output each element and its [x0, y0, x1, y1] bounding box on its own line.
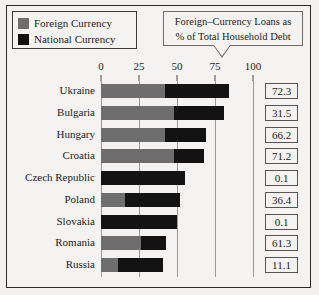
bar-segment-national — [174, 149, 204, 163]
bar-segment-foreign — [101, 258, 118, 272]
value-box: 31.5 — [265, 105, 298, 121]
chart-row: Czech Republic0.1 — [0, 168, 319, 190]
bar-segment-foreign — [101, 106, 174, 120]
category-label: Bulgaria — [57, 106, 95, 118]
legend-item-national-currency: National Currency — [18, 31, 132, 47]
callout-pointer-inner-icon — [214, 45, 230, 56]
category-label: Slovakia — [57, 215, 96, 227]
stacked-bar — [101, 171, 185, 185]
stacked-bar — [101, 215, 177, 229]
plot-area: Ukraine72.3Bulgaria31.5Hungary66.2Croati… — [0, 81, 319, 277]
chart-row: Romania61.3 — [0, 233, 319, 255]
stacked-bar — [101, 236, 166, 250]
chart-row: Bulgaria31.5 — [0, 103, 319, 125]
bar-segment-national — [141, 236, 167, 250]
bar-segment-foreign — [101, 128, 165, 142]
x-axis-tick-labels: 0255075100 — [0, 60, 319, 74]
stacked-bar — [101, 106, 224, 120]
legend-label-foreign: Foreign Currency — [34, 18, 112, 29]
bar-segment-foreign — [101, 193, 125, 207]
x-axis-tick-label: 100 — [245, 60, 262, 72]
callout-line-1: Foreign–Currency Loans as — [164, 14, 302, 29]
bar-segment-national — [101, 215, 177, 229]
callout-box: Foreign–Currency Loans as % of Total Hou… — [163, 11, 303, 46]
chart-row: Russia11.1 — [0, 255, 319, 277]
value-box: 11.1 — [265, 257, 298, 273]
value-box: 0.1 — [265, 214, 298, 230]
x-axis-tick-label: 50 — [172, 60, 183, 72]
bar-segment-national — [118, 258, 164, 272]
figure-canvas: Foreign Currency National Currency Forei… — [0, 0, 319, 295]
chart-row: Slovakia0.1 — [0, 212, 319, 234]
value-box: 36.4 — [265, 192, 298, 208]
category-label: Czech Republic — [25, 171, 95, 183]
value-box: 0.1 — [265, 170, 298, 186]
chart-row: Ukraine72.3 — [0, 81, 319, 103]
chart-row: Croatia71.2 — [0, 146, 319, 168]
bar-segment-foreign — [101, 236, 141, 250]
stacked-bar — [101, 128, 206, 142]
stacked-bar — [101, 258, 163, 272]
category-label: Poland — [64, 193, 95, 205]
value-box: 72.3 — [265, 83, 298, 99]
bar-segment-national — [174, 106, 224, 120]
value-box: 71.2 — [265, 148, 298, 164]
stacked-bar — [101, 84, 229, 98]
legend-label-national: National Currency — [34, 34, 116, 45]
callout-line-2: % of Total Household Debt — [164, 29, 302, 44]
bar-segment-foreign — [101, 84, 165, 98]
legend-swatch-foreign-icon — [18, 18, 29, 29]
value-box: 61.3 — [265, 235, 298, 251]
bar-segment-foreign — [101, 149, 174, 163]
x-axis-tick-label: 75 — [210, 60, 221, 72]
chart-legend: Foreign Currency National Currency — [12, 11, 137, 49]
bar-segment-national — [125, 193, 180, 207]
bar-segment-national — [165, 84, 229, 98]
legend-swatch-national-icon — [18, 34, 29, 45]
chart-row: Poland36.4 — [0, 190, 319, 212]
category-label: Romania — [55, 236, 95, 248]
legend-item-foreign-currency: Foreign Currency — [18, 15, 132, 31]
category-label: Croatia — [63, 149, 95, 161]
category-label: Russia — [66, 258, 95, 270]
bar-segment-national — [165, 128, 206, 142]
chart-row: Hungary66.2 — [0, 125, 319, 147]
category-label: Hungary — [57, 128, 96, 140]
stacked-bar — [101, 193, 180, 207]
value-box: 66.2 — [265, 127, 298, 143]
x-axis-tick-label: 0 — [98, 60, 104, 72]
stacked-bar — [101, 149, 204, 163]
bar-segment-national — [101, 171, 185, 185]
x-axis-tick-label: 25 — [134, 60, 145, 72]
category-label: Ukraine — [60, 84, 95, 96]
